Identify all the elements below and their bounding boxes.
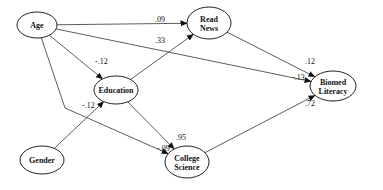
edge-age-to-read-news [57, 23, 187, 25]
node-label: News [200, 24, 218, 33]
edge-coefficient-label: .09 [155, 15, 165, 24]
node-label: Gender [29, 156, 55, 165]
edge-coefficient-label: .95 [176, 133, 186, 142]
node-college-science: CollegeScience [165, 146, 209, 178]
node-biomed-literacy: BiomedLiteracy [310, 71, 356, 101]
edge-coefficient-label: -.09 [157, 144, 170, 153]
node-label: College [174, 154, 200, 163]
path-diagram: AgeReadNewsEducationBiomedLiteracyGender… [0, 0, 383, 190]
edge-coefficient-label: -.12 [82, 101, 95, 110]
node-read-news: ReadNews [187, 7, 231, 39]
node-label: Literacy [319, 87, 348, 96]
edge-education-to-college-science [128, 102, 174, 149]
node-label: Read [200, 15, 218, 24]
edge-coefficient-label: -.12 [95, 57, 108, 66]
diagram-svg: AgeReadNewsEducationBiomedLiteracyGender… [0, 0, 383, 190]
node-gender: Gender [20, 146, 64, 174]
edge-college-science-to-biomed-literacy [205, 95, 315, 152]
node-education: Education [94, 76, 138, 104]
edge-coefficient-label: -.13 [292, 73, 305, 82]
edge-coefficient-label: .72 [305, 99, 315, 108]
node-label: Science [174, 163, 200, 172]
node-label: Education [98, 86, 134, 95]
nodes-layer: AgeReadNewsEducationBiomedLiteracyGender… [17, 7, 356, 178]
edge-coefficient-label: .12 [305, 57, 315, 66]
node-label: Age [30, 21, 44, 30]
node-label: Biomed [320, 78, 347, 87]
edge-read-news-to-biomed-literacy [227, 32, 315, 77]
edge-coefficient-label: .33 [155, 36, 165, 45]
node-age: Age [17, 12, 57, 38]
edge-gender-to-education [54, 102, 103, 149]
